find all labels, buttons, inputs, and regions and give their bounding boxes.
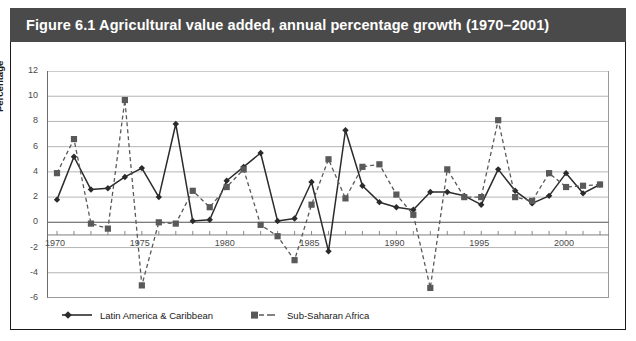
x-tick-label: 1995 xyxy=(469,238,489,248)
x-tick-label: 1980 xyxy=(215,238,235,248)
legend-item-latin-america[interactable]: Latin America & Caribbean xyxy=(60,309,213,321)
y-tick-label: 2 xyxy=(14,191,38,201)
figure-title: Figure 6.1 Agricultural value added, ann… xyxy=(10,17,549,33)
x-tick-label: 1970 xyxy=(45,238,65,248)
y-tick-label: -6 xyxy=(14,292,38,302)
figure-title-bar: Figure 6.1 Agricultural value added, ann… xyxy=(10,8,626,42)
x-tick-label: 1985 xyxy=(300,238,320,248)
y-tick-label: 6 xyxy=(14,141,38,151)
y-tick-label: 10 xyxy=(14,90,38,100)
legend-item-sub-saharan-africa[interactable]: Sub-Saharan Africa xyxy=(249,309,369,321)
y-tick-label: -4 xyxy=(14,267,38,277)
y-tick-label: 0 xyxy=(14,216,38,226)
y-tick-label: 8 xyxy=(14,115,38,125)
diamond-marker-icon xyxy=(60,309,94,321)
y-axis-title: Percentage xyxy=(0,61,5,112)
chart-legend: Latin America & Caribbean Sub-Saharan Af… xyxy=(60,309,369,321)
figure-root: Figure 6.1 Agricultural value added, ann… xyxy=(0,0,636,341)
y-tick-label: 4 xyxy=(14,166,38,176)
x-tick-label: 1975 xyxy=(130,238,150,248)
legend-label-latin-america: Latin America & Caribbean xyxy=(100,310,213,321)
legend-label-sub-saharan-africa: Sub-Saharan Africa xyxy=(287,310,369,321)
y-tick-label: -2 xyxy=(14,242,38,252)
y-tick-label: 12 xyxy=(14,65,38,75)
square-marker-icon xyxy=(249,309,281,321)
plot-area xyxy=(47,71,608,298)
x-tick-label: 2000 xyxy=(554,238,574,248)
x-tick-label: 1990 xyxy=(384,238,404,248)
chart-svg xyxy=(48,71,609,298)
